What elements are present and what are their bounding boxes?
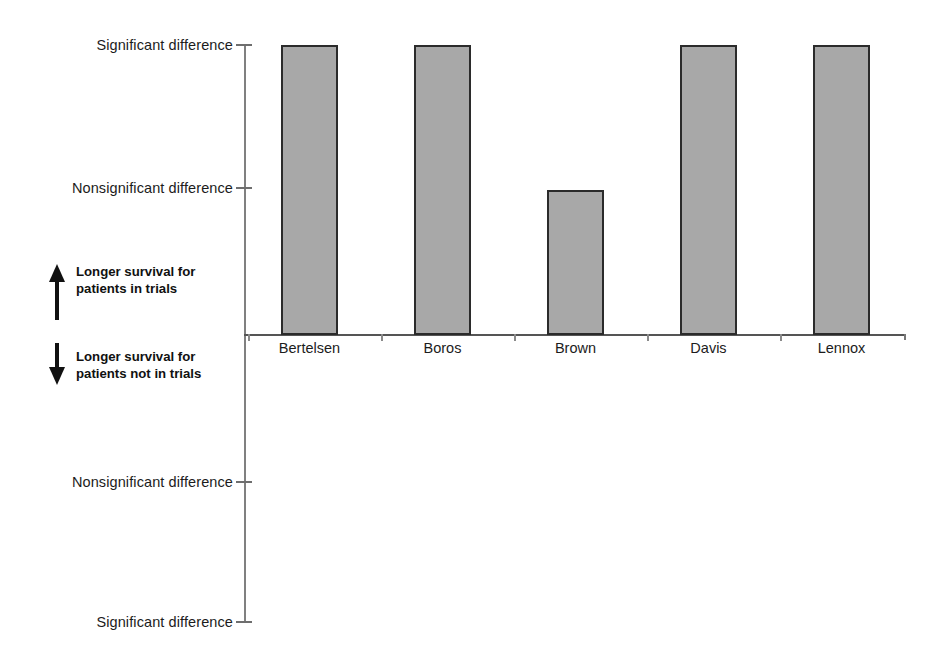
arrow-up-icon <box>46 262 68 322</box>
annotation-down-line1: Longer survival for <box>76 349 195 364</box>
annotation-up-line1: Longer survival for <box>76 264 195 279</box>
bar-chart: Significant difference Nonsignificant di… <box>0 0 933 655</box>
bar-lennox <box>813 45 870 335</box>
bar-davis <box>680 45 737 335</box>
y-axis-label-nonsignificant-bottom: Nonsignificant difference <box>72 475 233 490</box>
y-axis-tick <box>236 481 252 483</box>
x-axis-tick <box>381 334 383 341</box>
category-label-davis: Davis <box>652 341 765 356</box>
category-label-bertelsen: Bertelsen <box>253 341 366 356</box>
x-axis-tick <box>514 334 516 341</box>
x-axis-tick <box>780 334 782 341</box>
annotation-longer-survival-in-trials: Longer survival for patients in trials <box>76 263 195 297</box>
y-axis-tick <box>236 44 252 46</box>
y-axis-label-significant-bottom: Significant difference <box>96 615 233 630</box>
annotation-up-line2: patients in trials <box>76 280 195 297</box>
category-label-boros: Boros <box>386 341 499 356</box>
annotation-longer-survival-not-in-trials: Longer survival for patients not in tria… <box>76 348 201 382</box>
y-axis-tick <box>236 621 252 623</box>
category-label-lennox: Lennox <box>785 341 898 356</box>
x-axis-end-tick <box>904 334 906 340</box>
y-axis-label-nonsignificant-top: Nonsignificant difference <box>72 181 233 196</box>
arrow-down-icon <box>46 343 68 387</box>
x-axis-tick <box>248 334 250 341</box>
y-axis-label-significant-top: Significant difference <box>96 38 233 53</box>
bar-brown <box>547 190 604 335</box>
category-label-brown: Brown <box>519 341 632 356</box>
bar-bertelsen <box>281 45 338 335</box>
y-axis-tick <box>236 187 252 189</box>
x-axis-tick <box>647 334 649 341</box>
bar-boros <box>414 45 471 335</box>
annotation-down-line2: patients not in trials <box>76 365 201 382</box>
